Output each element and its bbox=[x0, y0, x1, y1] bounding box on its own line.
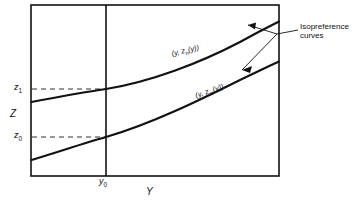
annotation-arrowhead-upper bbox=[248, 23, 256, 30]
y0-tick-label: y0 bbox=[99, 176, 107, 188]
plot-frame bbox=[31, 5, 279, 176]
isopreference-curves-figure: Z Y z1 z0 y0 (y, zn(y)) (y, zm(y)) Isopr… bbox=[0, 0, 359, 202]
z-axis-label: Z bbox=[10, 108, 16, 120]
z0-tick-subscript: 0 bbox=[19, 135, 23, 142]
isopreference-annotation: Isopreference curves bbox=[300, 22, 358, 40]
annotation-arrowhead-lower bbox=[242, 66, 252, 73]
upper-isopreference-curve bbox=[32, 22, 280, 103]
y-axis-label: Y bbox=[146, 186, 153, 198]
annotation-leader-line bbox=[277, 30, 298, 34]
z0-tick-label: z0 bbox=[14, 130, 22, 142]
z1-tick-label: z1 bbox=[14, 82, 22, 94]
upper-curve-label-main: (y, z bbox=[171, 46, 186, 58]
lower-curve-label-tail: (y)) bbox=[211, 82, 225, 94]
z1-tick-subscript: 1 bbox=[19, 87, 23, 94]
upper-curve-label-tail: (y)) bbox=[187, 43, 200, 54]
y0-tick-subscript: 0 bbox=[104, 181, 108, 188]
